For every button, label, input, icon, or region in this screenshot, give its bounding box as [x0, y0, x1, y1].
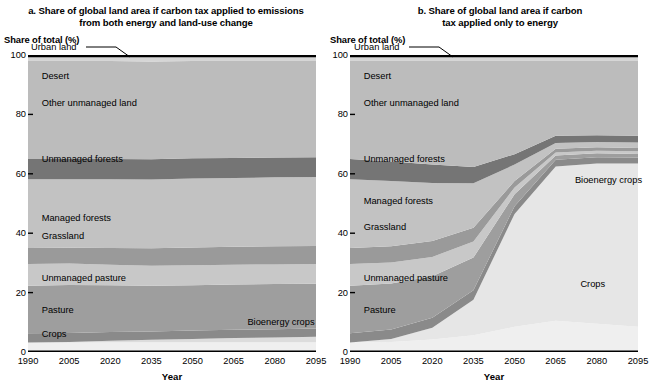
x-tick-label-2005: 2005	[59, 356, 80, 366]
y-tick-label-60: 60	[2, 169, 26, 179]
y-tick-label-100: 100	[324, 50, 348, 60]
x-tick-label-2065: 2065	[223, 356, 244, 366]
x-tick-label-1990: 1990	[18, 356, 39, 366]
x-tick-label-2080: 2080	[265, 356, 286, 366]
panel-b-x-axis-title: Year	[350, 371, 638, 382]
x-tick-label-2035: 2035	[463, 356, 484, 366]
band-label-crops: Crops	[42, 329, 67, 339]
panel-b-y-tick-labels: 020406080100	[322, 55, 348, 352]
band-label-unmanaged-pasture: Unmanaged pasture	[42, 273, 126, 283]
band-label-managed-forests: Managed forests	[364, 196, 433, 206]
band-label-grassland: Grassland	[364, 222, 406, 232]
panel-b-plot-area: DesertOther unmanaged landUnmanaged fore…	[350, 55, 638, 352]
band-label-desert: Desert	[42, 71, 69, 81]
panel-a-title-line1: a. Share of global land area if carbon t…	[28, 5, 304, 16]
band-label-other-unmanaged-land: Other unmanaged land	[42, 98, 137, 108]
y-tick-label-80: 80	[324, 109, 348, 119]
x-tick-label-2065: 2065	[545, 356, 566, 366]
band-label-bioenergy-crops: Bioenergy crops	[247, 317, 314, 327]
y-tick-label-20: 20	[324, 288, 348, 298]
band-label-pasture: Pasture	[364, 305, 396, 315]
x-tick-label-2050: 2050	[182, 356, 203, 366]
figure-container: a. Share of global land area if carbon t…	[0, 0, 656, 389]
band-label-pasture: Pasture	[42, 305, 74, 315]
panel-a-x-axis-title: Year	[28, 371, 316, 382]
x-tick-label-2035: 2035	[141, 356, 162, 366]
band-label-grassland: Grassland	[42, 231, 84, 241]
x-tick-label-2005: 2005	[381, 356, 402, 366]
band-label-bioenergy-crops: Bioenergy crops	[575, 175, 642, 185]
y-tick-label-40: 40	[324, 228, 348, 238]
y-tick-label-60: 60	[324, 169, 348, 179]
area-band-desert	[28, 61, 316, 159]
y-tick-label-80: 80	[2, 109, 26, 119]
x-tick-label-1990: 1990	[340, 356, 361, 366]
band-label-managed-forests: Managed forests	[42, 213, 111, 223]
x-tick-label-2095: 2095	[306, 356, 327, 366]
x-tick-label-2050: 2050	[504, 356, 525, 366]
y-tick-label-40: 40	[2, 228, 26, 238]
band-label-unmanaged-pasture: Unmanaged pasture	[364, 273, 448, 283]
panel-a-y-tick-labels: 020406080100	[0, 55, 26, 352]
x-tick-label-2020: 2020	[422, 356, 443, 366]
panel-b-title: b. Share of global land area if carbon t…	[354, 5, 646, 28]
x-tick-label-2080: 2080	[587, 356, 608, 366]
band-label-other-unmanaged-land: Other unmanaged land	[364, 98, 459, 108]
band-label-desert: Desert	[364, 71, 391, 81]
panel-a-plot-area: DesertOther unmanaged landUnmanaged fore…	[28, 55, 316, 352]
panel-a: a. Share of global land area if carbon t…	[0, 0, 328, 389]
band-label-unmanaged-forests: Unmanaged forests	[42, 154, 123, 164]
panel-b-x-tick-labels: 19902005202020352050206520802095	[350, 356, 638, 370]
panel-a-urban-land-label: Urban land	[31, 42, 76, 52]
panel-a-x-tick-labels: 19902005202020352050206520802095	[28, 356, 316, 370]
panel-b-title-line2: tax applied only to energy	[442, 17, 558, 28]
x-tick-label-2095: 2095	[628, 356, 649, 366]
x-tick-label-2020: 2020	[100, 356, 121, 366]
y-tick-label-100: 100	[2, 50, 26, 60]
panel-a-title: a. Share of global land area if carbon t…	[10, 5, 322, 28]
y-tick-label-20: 20	[2, 288, 26, 298]
band-label-crops: Crops	[580, 279, 605, 289]
panel-b-urban-land-label: Urban land	[354, 42, 399, 52]
panel-b: b. Share of global land area if carbon t…	[328, 0, 656, 389]
panel-b-title-line1: b. Share of global land area if carbon	[418, 5, 583, 16]
area-band-managed-forests	[28, 246, 316, 266]
band-label-unmanaged-forests: Unmanaged forests	[364, 154, 445, 164]
panel-a-title-line2: from both energy and land-use change	[79, 17, 252, 28]
